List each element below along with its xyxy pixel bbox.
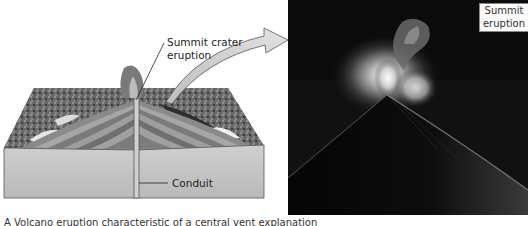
figure-caption: A Volcano eruption characteristic of a c… [4, 217, 364, 226]
conduit-pipe [134, 98, 139, 198]
summit-crater-eruption-label: Summit crater eruption [167, 36, 267, 62]
summit-eruption-label-line1: Summit [482, 5, 526, 18]
volcano-eruption-photo: Summit eruption [288, 0, 528, 215]
night-volcano-photo-image [288, 0, 528, 215]
summit-eruption-label-line2: eruption [482, 18, 526, 31]
summit-crater-label-line1: Summit crater [167, 36, 267, 49]
summit-eruption-label-box: Summit eruption [479, 3, 528, 32]
volcano-block-diagram: Summit crater eruption Conduit [0, 0, 290, 212]
volcano-cross-section-illustration [0, 0, 290, 212]
conduit-label: Conduit [172, 177, 213, 190]
summit-crater-label-line2: eruption [167, 49, 267, 62]
